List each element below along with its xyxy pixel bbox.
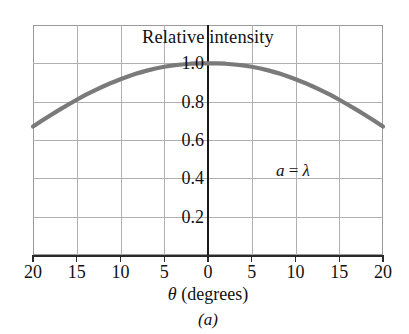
- x-axis-tick-label: 5: [160, 262, 169, 282]
- y-axis-tick-label: 0.2: [182, 208, 205, 226]
- x-axis-tick-mark: [76, 255, 77, 262]
- annotation-symbol: a: [276, 161, 285, 180]
- x-axis-tick-label: 5: [247, 262, 256, 282]
- plot-area: Relative intensity 0.20.40.60.81.0 a = λ: [33, 25, 383, 255]
- y-axis-tick-label: 1.0: [182, 54, 205, 72]
- x-axis-tick-mark: [164, 255, 165, 262]
- x-axis-tick-label: 20: [24, 262, 42, 282]
- x-axis-tick-label: 10: [287, 262, 305, 282]
- x-axis-tick-mark: [32, 255, 33, 262]
- x-axis-tick-label: 0: [204, 262, 213, 282]
- figure-caption-text: (a): [198, 310, 218, 329]
- x-axis-tick-mark: [339, 255, 340, 262]
- y-axis-tick-label: 0.6: [182, 131, 205, 149]
- annotation-value: λ: [303, 161, 310, 180]
- x-axis-tick-label: 20: [374, 262, 392, 282]
- diffraction-intensity-figure: Relative intensity 0.20.40.60.81.0 a = λ…: [0, 0, 409, 334]
- x-axis-title: θ (degrees): [33, 284, 383, 304]
- x-axis-tick-mark: [120, 255, 121, 262]
- figure-caption: (a): [33, 310, 383, 330]
- x-axis-tick-mark: [207, 255, 208, 262]
- x-axis-tick-label: 10: [112, 262, 130, 282]
- x-axis-units: (degrees): [177, 284, 248, 304]
- y-axis-tick-label: 0.8: [182, 93, 205, 111]
- x-axis-tick-mark: [382, 255, 383, 262]
- x-axis-tick-mark: [295, 255, 296, 262]
- x-axis-tick-mark: [251, 255, 252, 262]
- x-axis-tick-label: 15: [68, 262, 86, 282]
- x-axis-symbol: θ: [168, 284, 177, 304]
- slit-width-annotation: a = λ: [276, 161, 310, 181]
- annotation-equals: =: [285, 161, 303, 180]
- x-axis-tick-label: 15: [330, 262, 348, 282]
- y-axis-tick-label: 0.4: [182, 169, 205, 187]
- y-axis-tick-labels: 0.20.40.60.81.0: [33, 25, 204, 255]
